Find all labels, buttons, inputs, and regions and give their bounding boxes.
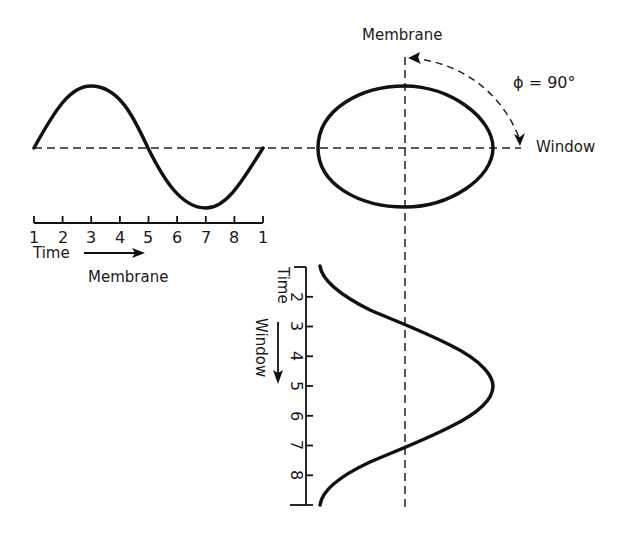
tick-label: 5	[143, 230, 153, 246]
window-waveform	[320, 266, 493, 505]
tick-label: 1	[29, 230, 39, 246]
arrowhead-down-icon	[514, 133, 525, 146]
time-arrow-down-icon	[273, 322, 283, 384]
window-axis-label: Window	[536, 140, 595, 155]
phase-arc	[412, 58, 520, 140]
tick-label: 1	[258, 230, 268, 246]
membrane-time-label: Membrane	[88, 270, 168, 285]
tick-label: 8	[229, 230, 239, 246]
membrane-sine-wave	[34, 86, 263, 208]
tick-label: 7	[201, 230, 211, 246]
horizontal-time-axis	[34, 216, 263, 223]
tick-label: 5	[288, 381, 304, 391]
tick-label: 3	[288, 321, 304, 331]
tick-label: 2	[58, 230, 68, 246]
tick-label: 6	[288, 411, 304, 421]
tick-label: 4	[288, 351, 304, 361]
time-label-horizontal: Time	[33, 246, 70, 261]
tick-label: 2	[288, 292, 304, 302]
tick-label: 3	[86, 230, 96, 246]
tick-label: 6	[172, 230, 182, 246]
tick-label: 4	[115, 230, 125, 246]
phase-angle-label: ϕ = 90°	[513, 75, 576, 91]
time-arrow-right-icon	[84, 248, 145, 258]
tick-label: 7	[288, 440, 304, 450]
membrane-axis-label: Membrane	[362, 28, 442, 43]
arrowhead-up-left-icon	[408, 52, 421, 64]
tick-label: 8	[288, 470, 304, 480]
window-time-label: Window	[253, 318, 268, 377]
